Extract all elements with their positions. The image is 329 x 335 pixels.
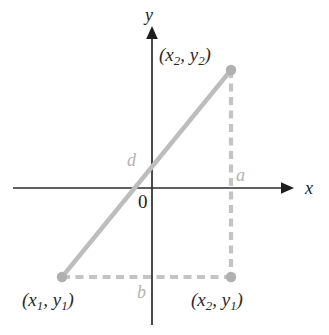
point-marker-x1-y1 [57, 272, 67, 282]
point-label-x2-y2-sep: , y [180, 44, 198, 65]
point-marker-x2-y2 [226, 65, 236, 75]
point-label-x1-y1: (x1, y1) [22, 290, 74, 309]
point-label-x2-y2: (x2, y2) [159, 45, 211, 64]
side-label-d: d [127, 151, 136, 169]
point-label-x1-y1-sub2: 1 [61, 298, 67, 313]
point-label-x2-y2-sub2: 2 [198, 53, 204, 68]
point-label-x1-y1-base: (x [22, 289, 37, 310]
point-label-x1-y1-end: ) [68, 289, 74, 310]
y-axis-arrowhead-icon [146, 26, 158, 39]
distance-formula-figure: y x 0 (x2, y2) (x1, y1) (x2, y1) d a b [0, 0, 329, 335]
point-label-x1-y1-sep: , y [43, 289, 61, 310]
x-axis-arrowhead-icon [281, 182, 294, 194]
point-label-x2-y1: (x2, y1) [191, 290, 243, 309]
side-label-b: b [137, 283, 146, 301]
point-label-x2-y1-sub1: 2 [206, 298, 212, 313]
origin-label: 0 [138, 192, 148, 211]
point-label-x2-y1-sub2: 1 [230, 298, 236, 313]
point-label-x2-y1-base: (x [191, 289, 206, 310]
y-axis-label: y [145, 6, 153, 24]
point-label-x2-y2-end: ) [205, 44, 211, 65]
point-marker-x2-y1 [226, 272, 236, 282]
point-label-x2-y1-end: ) [237, 289, 243, 310]
side-label-a: a [236, 166, 245, 184]
point-label-x2-y2-sub1: 2 [174, 53, 180, 68]
point-label-x2-y1-sep: , y [212, 289, 230, 310]
point-label-x2-y2-base: (x [159, 44, 174, 65]
x-axis-label: x [305, 179, 313, 197]
hypotenuse-segment-d [62, 70, 231, 277]
point-label-x1-y1-sub1: 1 [37, 298, 43, 313]
